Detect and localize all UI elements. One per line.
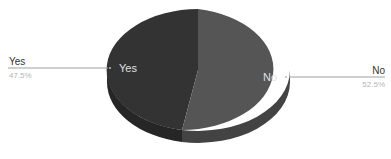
pie-chart: Yes No Yes 47.5% No 52.5% bbox=[0, 0, 391, 159]
yes-leader-dot bbox=[109, 67, 111, 69]
callout-label-yes: Yes bbox=[9, 56, 25, 67]
callout-value-yes: 47.5% bbox=[9, 71, 32, 80]
no-leader-dot bbox=[285, 76, 287, 78]
callout-value-no: 52.5% bbox=[362, 80, 385, 89]
slice-label-yes: Yes bbox=[119, 62, 137, 74]
callout-label-no: No bbox=[372, 65, 385, 76]
slice-label-no: No bbox=[263, 71, 277, 83]
